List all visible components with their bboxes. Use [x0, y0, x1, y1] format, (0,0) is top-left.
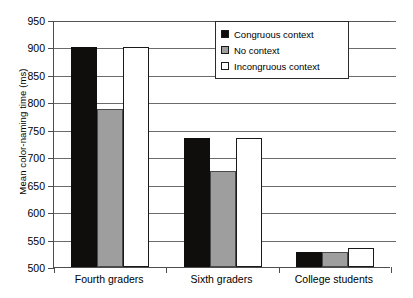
bar-sixth-graders-no-context — [210, 171, 236, 267]
y-tick-mark-550 — [48, 241, 54, 242]
bar-college-students-no-context — [322, 252, 348, 267]
y-tick-label-900: 900 — [5, 42, 45, 54]
right-tick-750 — [390, 131, 396, 132]
right-tick-950 — [390, 21, 396, 22]
bar-fourth-graders-no-context — [97, 109, 123, 267]
x-axis-label-sixth-graders: Sixth graders — [191, 273, 253, 285]
right-tick-600 — [390, 213, 396, 214]
legend-label-incongruous: Incongruous context — [234, 61, 320, 72]
right-tick-700 — [390, 158, 396, 159]
right-tick-850 — [390, 76, 396, 77]
bar-college-students-congruous-context — [296, 252, 322, 267]
y-tick-label-650: 650 — [5, 180, 45, 192]
y-tick-mark-850 — [48, 76, 54, 77]
right-tick-550 — [390, 241, 396, 242]
y-tick-label-550: 550 — [5, 235, 45, 247]
bar-fourth-graders-incongruous-context — [123, 47, 149, 267]
y-tick-mark-800 — [48, 103, 54, 104]
x-axis-end-tick-1 — [391, 267, 392, 273]
chart-legend: Congruous context No context Incongruous… — [215, 21, 349, 79]
bar-chart: Mean color-naming time (ms) 950900850800… — [0, 0, 413, 298]
legend-item-incongruous: Incongruous context — [221, 58, 343, 74]
black-square-icon — [221, 30, 229, 38]
right-tick-900 — [390, 48, 396, 49]
y-tick-mark-750 — [48, 131, 54, 132]
x-axis-end-tick-0 — [54, 267, 55, 273]
right-tick-800 — [390, 103, 396, 104]
y-tick-label-600: 600 — [5, 207, 45, 219]
bar-sixth-graders-incongruous-context — [236, 138, 262, 267]
legend-label-congruous: Congruous context — [234, 29, 314, 40]
y-tick-mark-950 — [48, 21, 54, 22]
x-axis-label-college-students: College students — [295, 273, 373, 285]
y-tick-mark-650 — [48, 186, 54, 187]
y-tick-label-750: 750 — [5, 125, 45, 137]
gray-square-icon — [221, 46, 229, 54]
white-square-icon — [221, 62, 229, 70]
legend-item-no-context: No context — [221, 42, 343, 58]
bar-fourth-graders-congruous-context — [71, 47, 97, 267]
legend-label-no-context: No context — [234, 45, 279, 56]
x-tick-mark-1 — [166, 267, 167, 273]
right-tick-650 — [390, 186, 396, 187]
y-tick-label-700: 700 — [5, 152, 45, 164]
bar-college-students-incongruous-context — [348, 248, 374, 267]
legend-item-congruous: Congruous context — [221, 26, 343, 42]
x-axis-label-fourth-graders: Fourth graders — [75, 273, 144, 285]
y-tick-mark-600 — [48, 213, 54, 214]
gridline-800 — [54, 103, 391, 104]
y-tick-mark-700 — [48, 158, 54, 159]
y-tick-label-800: 800 — [5, 97, 45, 109]
y-tick-label-950: 950 — [5, 15, 45, 27]
bar-sixth-graders-congruous-context — [184, 138, 210, 267]
y-tick-mark-900 — [48, 48, 54, 49]
y-tick-label-500: 500 — [5, 262, 45, 274]
y-tick-label-850: 850 — [5, 70, 45, 82]
x-tick-mark-2 — [279, 267, 280, 273]
